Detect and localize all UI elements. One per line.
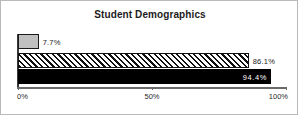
bar-value-label-series-2: 86.1% bbox=[253, 56, 275, 65]
x-axis-tick bbox=[18, 87, 19, 90]
x-axis-tick-label-0: 0% bbox=[17, 92, 28, 101]
x-axis-tick bbox=[152, 87, 153, 90]
bar-series-3[interactable] bbox=[18, 69, 271, 84]
bar-value-label-series-1: 7.7% bbox=[43, 37, 61, 46]
plot-area: 7.7% 86.1% 94.4% bbox=[18, 34, 286, 87]
bar-value-label-series-3: 94.4% bbox=[243, 72, 267, 81]
x-axis-tick bbox=[286, 87, 287, 90]
chart-title: Student Demographics bbox=[1, 9, 298, 20]
x-axis-tick-label-50: 50% bbox=[144, 92, 159, 101]
x-axis-tick-label-100: 100% bbox=[269, 92, 288, 101]
bar-series-2[interactable] bbox=[18, 53, 249, 68]
chart-container: Student Demographics 7.7% 86.1% 94.4% 0%… bbox=[0, 0, 298, 115]
bar-series-1[interactable] bbox=[18, 34, 39, 49]
